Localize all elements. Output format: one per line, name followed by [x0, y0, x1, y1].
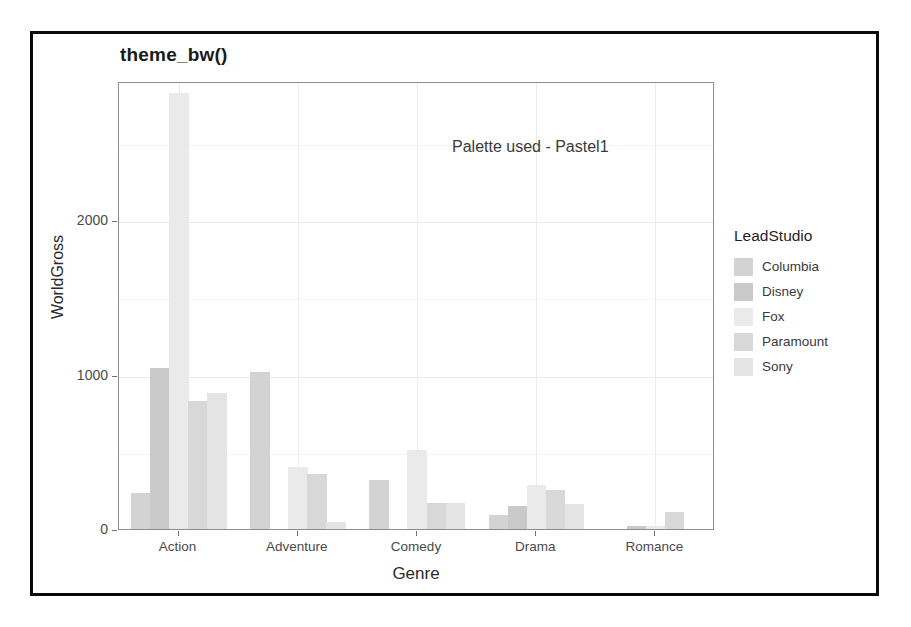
legend-swatch-icon: [734, 308, 753, 326]
y-tick-label: 0: [52, 521, 108, 537]
bar-action-disney: [150, 368, 169, 529]
x-tick-mark: [297, 531, 298, 536]
legend-item-label: Fox: [762, 309, 785, 324]
legend: LeadStudio ColumbiaDisneyFoxParamountSon…: [734, 227, 828, 379]
legend-item-label: Paramount: [762, 334, 828, 349]
bar-action-paramount: [188, 401, 207, 529]
gridline-minor: [119, 299, 713, 300]
x-tick-mark: [178, 531, 179, 536]
legend-swatch-icon: [734, 358, 753, 376]
bar-romance-paramount: [665, 512, 684, 529]
x-tick-mark: [654, 531, 655, 536]
page-title: theme_bw(): [120, 44, 228, 66]
y-tick-label: 2000: [52, 212, 108, 228]
bar-comedy-columbia: [369, 480, 388, 529]
legend-item-label: Columbia: [762, 259, 819, 274]
bar-adventure-sony: [326, 522, 345, 529]
x-tick-mark: [535, 531, 536, 536]
bar-comedy-paramount: [427, 503, 446, 529]
y-tick-mark: [112, 530, 117, 531]
palette-annotation: Palette used - Pastel1: [452, 138, 609, 156]
bar-action-fox: [169, 93, 188, 529]
legend-item-label: Sony: [762, 359, 793, 374]
gridline-major: [119, 377, 713, 378]
legend-swatch-icon: [734, 333, 753, 351]
legend-item-label: Disney: [762, 284, 803, 299]
legend-items: ColumbiaDisneyFoxParamountSony: [734, 254, 828, 379]
legend-item-columbia[interactable]: Columbia: [734, 254, 828, 279]
y-tick-label: 1000: [52, 367, 108, 383]
legend-swatch-icon: [734, 283, 753, 301]
bar-action-columbia: [131, 493, 150, 529]
x-tick-label: Adventure: [237, 539, 357, 554]
bar-romance-fox: [646, 526, 665, 529]
x-tick-mark: [416, 531, 417, 536]
bar-drama-sony: [565, 504, 584, 529]
bar-drama-columbia: [489, 515, 508, 529]
bar-adventure-fox: [288, 467, 307, 529]
y-tick-mark: [112, 221, 117, 222]
bar-action-sony: [207, 393, 226, 529]
x-tick-label: Drama: [475, 539, 595, 554]
x-tick-label: Action: [118, 539, 238, 554]
bar-romance-disney: [627, 526, 646, 529]
legend-item-fox[interactable]: Fox: [734, 304, 828, 329]
bar-drama-fox: [527, 485, 546, 529]
bar-comedy-sony: [446, 503, 465, 529]
bar-drama-paramount: [546, 490, 565, 529]
x-tick-label: Comedy: [356, 539, 476, 554]
bar-adventure-paramount: [307, 474, 326, 529]
gridline-minor: [119, 145, 713, 146]
legend-item-sony[interactable]: Sony: [734, 354, 828, 379]
legend-item-paramount[interactable]: Paramount: [734, 329, 828, 354]
x-tick-label: Romance: [594, 539, 714, 554]
gridline-vertical: [655, 83, 656, 529]
bar-adventure-columbia: [250, 372, 269, 529]
legend-swatch-icon: [734, 258, 753, 276]
legend-item-disney[interactable]: Disney: [734, 279, 828, 304]
y-tick-mark: [112, 376, 117, 377]
bar-comedy-fox: [407, 450, 426, 529]
gridline-vertical: [298, 83, 299, 529]
legend-title: LeadStudio: [734, 227, 828, 245]
bar-drama-disney: [508, 506, 527, 529]
x-axis-title: Genre: [118, 564, 714, 584]
plot-panel: [118, 82, 714, 530]
gridline-major: [119, 222, 713, 223]
